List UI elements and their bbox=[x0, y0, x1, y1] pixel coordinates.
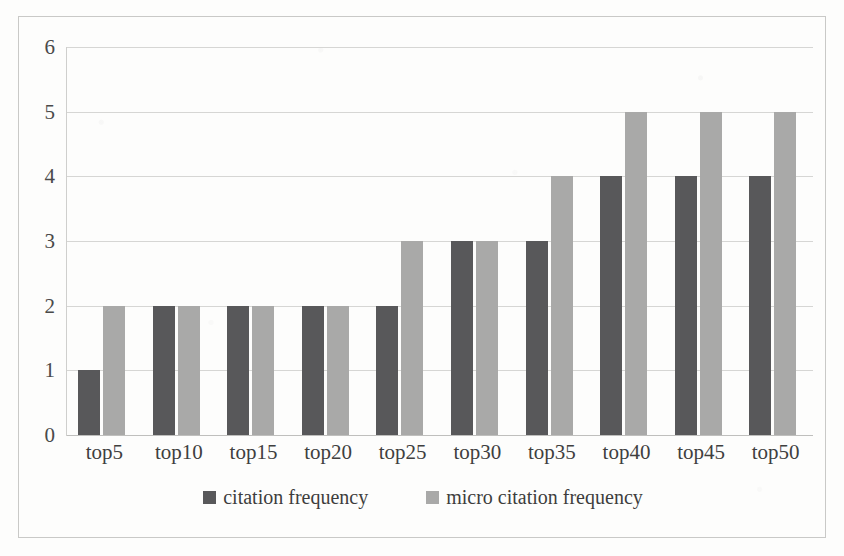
legend-label-0: citation frequency bbox=[223, 487, 368, 507]
bar-top5-series-1[interactable] bbox=[103, 306, 125, 435]
x-tick-label-top15: top15 bbox=[216, 441, 291, 464]
legend-item-1[interactable]: micro citation frequency bbox=[426, 487, 643, 507]
chart-legend: citation frequencymicro citation frequen… bbox=[19, 487, 827, 507]
bar-top20-series-1[interactable] bbox=[327, 306, 349, 435]
bar-group-top25 bbox=[365, 47, 440, 435]
bar-top5-series-0[interactable] bbox=[78, 370, 100, 435]
legend-swatch-icon-1 bbox=[426, 491, 439, 504]
bar-top35-series-0[interactable] bbox=[526, 241, 548, 435]
bar-group-top5 bbox=[67, 47, 142, 435]
bar-top25-series-0[interactable] bbox=[376, 306, 398, 435]
y-tick-label-0: 0 bbox=[21, 425, 55, 446]
x-tick-label-top5: top5 bbox=[67, 441, 142, 464]
x-axis-tick-labels: top5top10top15top20top25top30top35top40t… bbox=[67, 441, 813, 475]
bar-top40-series-0[interactable] bbox=[600, 176, 622, 435]
y-tick-label-1: 1 bbox=[21, 360, 55, 381]
bars-layer bbox=[67, 47, 813, 435]
x-tick-label-top10: top10 bbox=[142, 441, 217, 464]
gridline-0 bbox=[67, 435, 813, 436]
bar-group-top15 bbox=[216, 47, 291, 435]
bar-group-top20 bbox=[291, 47, 366, 435]
bar-top20-series-0[interactable] bbox=[302, 306, 324, 435]
y-tick-label-2: 2 bbox=[21, 295, 55, 316]
bar-top30-series-0[interactable] bbox=[451, 241, 473, 435]
x-tick-label-top35: top35 bbox=[515, 441, 590, 464]
plot-area: 6543210 bbox=[67, 47, 813, 435]
bar-group-top35 bbox=[515, 47, 590, 435]
x-tick-label-top40: top40 bbox=[589, 441, 664, 464]
y-tick-label-6: 6 bbox=[21, 37, 55, 58]
bar-group-top30 bbox=[440, 47, 515, 435]
bar-top45-series-1[interactable] bbox=[700, 112, 722, 435]
x-tick-label-top50: top50 bbox=[738, 441, 813, 464]
bar-top45-series-0[interactable] bbox=[675, 176, 697, 435]
x-tick-label-top20: top20 bbox=[291, 441, 366, 464]
bar-group-top10 bbox=[142, 47, 217, 435]
bar-top35-series-1[interactable] bbox=[551, 176, 573, 435]
bar-group-top50 bbox=[738, 47, 813, 435]
bar-top50-series-1[interactable] bbox=[774, 112, 796, 435]
bar-top30-series-1[interactable] bbox=[476, 241, 498, 435]
y-tick-label-5: 5 bbox=[21, 101, 55, 122]
x-tick-label-top25: top25 bbox=[365, 441, 440, 464]
legend-label-1: micro citation frequency bbox=[446, 487, 643, 507]
bar-top25-series-1[interactable] bbox=[401, 241, 423, 435]
bar-group-top45 bbox=[664, 47, 739, 435]
bar-top50-series-0[interactable] bbox=[749, 176, 771, 435]
page-background: 6543210 top5top10top15top20top25top30top… bbox=[0, 0, 844, 556]
legend-item-0[interactable]: citation frequency bbox=[203, 487, 368, 507]
chart-frame: 6543210 top5top10top15top20top25top30top… bbox=[18, 16, 826, 538]
y-tick-label-4: 4 bbox=[21, 166, 55, 187]
bar-top40-series-1[interactable] bbox=[625, 112, 647, 435]
legend-swatch-icon-0 bbox=[203, 491, 216, 504]
bar-top15-series-1[interactable] bbox=[252, 306, 274, 435]
y-tick-label-3: 3 bbox=[21, 231, 55, 252]
bar-top15-series-0[interactable] bbox=[227, 306, 249, 435]
x-tick-label-top45: top45 bbox=[664, 441, 739, 464]
bar-top10-series-0[interactable] bbox=[153, 306, 175, 435]
bar-top10-series-1[interactable] bbox=[178, 306, 200, 435]
bar-group-top40 bbox=[589, 47, 664, 435]
x-tick-label-top30: top30 bbox=[440, 441, 515, 464]
